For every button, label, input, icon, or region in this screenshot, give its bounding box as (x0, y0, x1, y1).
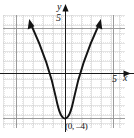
graph-svg (0, 0, 134, 138)
vertex-point-label: (0, –4) (65, 122, 88, 131)
y-axis-arrowhead (62, 4, 68, 12)
parabola-curve (32, 26, 99, 119)
x-axis-label: x (123, 73, 127, 83)
x-tick-label-5: 5 (112, 74, 117, 84)
y-axis-label: y (57, 2, 61, 12)
y-tick-label-5: 5 (56, 13, 61, 23)
parabola-figure: y 5 5 x (0, –4) (0, 0, 134, 138)
